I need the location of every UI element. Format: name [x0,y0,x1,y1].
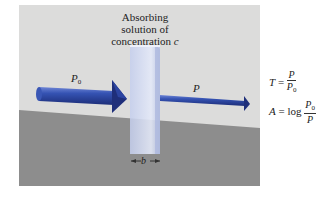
transmittance-formula: T = P P0 [269,70,296,96]
incident-power-label: P0 [71,72,81,88]
incident-beam-arrow [36,80,127,113]
transmitted-power-label: P [193,82,200,94]
cuvette-caption: Absorbing solution of concentration c [109,11,181,47]
diagram-panel: Absorbing solution of concentration c P0… [19,5,260,186]
path-length-label: b [141,155,146,167]
transmitted-beam-arrow [160,95,250,111]
cuvette [130,45,160,154]
absorbance-formula: A = log P0 P [269,100,316,125]
